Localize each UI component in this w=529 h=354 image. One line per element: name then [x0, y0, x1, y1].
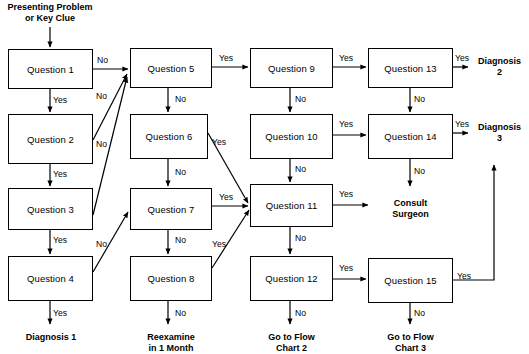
- node-label: Question 3: [27, 204, 74, 215]
- edge-label-q2-yes-q3: Yes: [53, 170, 67, 179]
- node-label: Question 6: [146, 131, 193, 142]
- node-label: Question 8: [148, 273, 195, 284]
- terminal-diagnosis-2: Diagnosis 2: [470, 56, 529, 78]
- node-label: Question 14: [384, 131, 436, 142]
- node-question-11[interactable]: Question 11: [250, 184, 333, 227]
- terminal-reexamine: Reexamine in 1 Month: [130, 332, 212, 354]
- node-label: Question 7: [148, 204, 195, 215]
- node-label: Question 12: [265, 273, 317, 284]
- edge-label-q6-no-q7: No: [175, 168, 186, 177]
- edge-label-q8-no-reex: No: [175, 309, 186, 318]
- edge-label-q15-yes-d3: Yes: [457, 272, 471, 281]
- edge-label-q5-yes-q9: Yes: [219, 54, 233, 63]
- edge-label-q14-yes-d3: Yes: [455, 120, 469, 129]
- edge-label-q15-no-fc3: No: [414, 309, 425, 318]
- edge-label-q10-no-q11: No: [295, 165, 306, 174]
- edge-q2-no-q5: [93, 74, 127, 140]
- flowchart-diagram: Presenting Problem or Key Clue Question …: [0, 0, 529, 354]
- terminal-consult-surgeon: Consult Surgeon: [368, 198, 453, 220]
- edge-label-q10-yes-q14: Yes: [339, 120, 353, 129]
- edge-label-q8-yes-q11: Yes: [212, 240, 226, 249]
- node-question-15[interactable]: Question 15: [368, 258, 453, 303]
- edge-label-q3-no-q5: No: [96, 140, 107, 149]
- node-label: Question 11: [266, 200, 318, 211]
- edge-label-q11-no-q12: No: [295, 234, 306, 243]
- edge-label-q4-yes-d1: Yes: [53, 309, 67, 318]
- edge-label-q9-yes-q13: Yes: [339, 54, 353, 63]
- edge-label-q12-yes-q15: Yes: [339, 264, 353, 273]
- node-question-7[interactable]: Question 7: [130, 188, 212, 230]
- node-question-5[interactable]: Question 5: [130, 48, 212, 88]
- edge-label-q9-no-q10: No: [295, 95, 306, 104]
- node-question-9[interactable]: Question 9: [250, 48, 333, 88]
- node-question-6[interactable]: Question 6: [130, 114, 208, 159]
- terminal-diagnosis-3: Diagnosis 3: [470, 122, 529, 144]
- node-question-2[interactable]: Question 2: [8, 114, 93, 164]
- edge-label-q5-no-q6: No: [175, 95, 186, 104]
- node-question-8[interactable]: Question 8: [130, 256, 212, 301]
- edge-label-q1-no-q5: No: [97, 56, 108, 65]
- edge-q15-yes-diagnosis-3: [453, 165, 494, 280]
- edge-label-q7-yes-q11: Yes: [219, 193, 233, 202]
- node-question-1[interactable]: Question 1: [8, 49, 93, 89]
- edge-label-q11-yes-cs: Yes: [339, 190, 353, 199]
- edge-label-q12-no-fc2: No: [295, 309, 306, 318]
- edge-label-q3-yes-q4: Yes: [53, 236, 67, 245]
- terminal-diagnosis-1: Diagnosis 1: [10, 332, 92, 343]
- edge-label-q2-no-q5: No: [96, 92, 107, 101]
- node-label: Question 15: [384, 275, 436, 286]
- edge-label-q13-yes-d2: Yes: [455, 54, 469, 63]
- node-label: Question 9: [268, 63, 315, 74]
- edge-label-q1-yes-q2: Yes: [53, 96, 67, 105]
- node-label: Question 10: [265, 131, 317, 142]
- node-question-12[interactable]: Question 12: [250, 256, 333, 301]
- node-question-14[interactable]: Question 14: [368, 114, 453, 159]
- node-label: Question 1: [27, 64, 74, 75]
- node-label: Question 13: [384, 63, 436, 74]
- edge-label-q7-no-q8: No: [175, 236, 186, 245]
- node-question-13[interactable]: Question 13: [368, 48, 453, 88]
- edge-label-q4-no-q7: No: [96, 240, 107, 249]
- node-label: Question 5: [148, 63, 195, 74]
- terminal-goto-chart-3: Go to Flow Chart 3: [368, 332, 453, 354]
- edge-label-q13-no-q14: No: [414, 95, 425, 104]
- terminal-goto-chart-2: Go to Flow Chart 2: [250, 332, 333, 354]
- node-question-10[interactable]: Question 10: [250, 114, 333, 159]
- node-label: Question 4: [27, 273, 74, 284]
- edge-label-q6-yes-q11: Yes: [212, 138, 226, 147]
- edge-label-q14-no-q15: No: [414, 167, 425, 176]
- node-question-3[interactable]: Question 3: [8, 188, 93, 230]
- node-label: Question 2: [27, 134, 74, 145]
- node-question-4[interactable]: Question 4: [8, 256, 93, 301]
- entry-label: Presenting Problem or Key Clue: [0, 2, 100, 24]
